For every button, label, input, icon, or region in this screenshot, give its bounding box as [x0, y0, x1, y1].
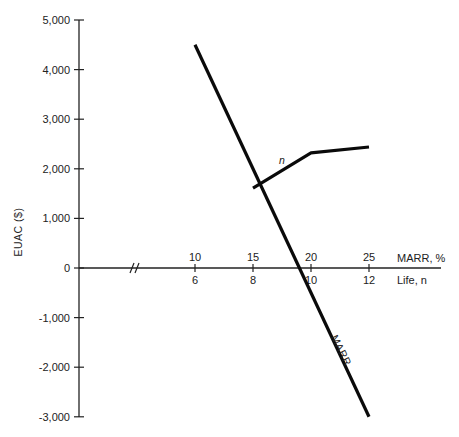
x-primary-tick-label: 20 — [305, 251, 317, 263]
series-marr-label: MARR — [329, 333, 354, 368]
x-secondary-tick-label: 12 — [363, 274, 375, 286]
x-primary-title: MARR, % — [397, 252, 446, 264]
y-tick-label: -3,000 — [39, 411, 70, 423]
y-tick-label: 5,000 — [42, 14, 70, 26]
x-primary-tick-label: 10 — [189, 251, 201, 263]
y-tick-label: 0 — [64, 262, 70, 274]
y-tick-label: 2,000 — [42, 163, 70, 175]
y-tick-label: -2,000 — [39, 361, 70, 373]
y-ticks: 5,0004,0003,0002,0001,0000-1,000-2,000-3… — [39, 14, 84, 423]
y-tick-label: 1,000 — [42, 212, 70, 224]
y-tick-label: -1,000 — [39, 312, 70, 324]
series-n-line — [253, 147, 369, 188]
x-secondary-title: Life, n — [397, 274, 427, 286]
series-n-label: n — [279, 154, 285, 166]
y-axis-title: EUAC ($) — [12, 208, 24, 257]
sensitivity-chart: 5,0004,0003,0002,0001,0000-1,000-2,000-3… — [0, 0, 459, 437]
x-secondary-tick-label: 8 — [250, 274, 256, 286]
x-primary-tick-label: 25 — [363, 251, 375, 263]
x-secondary-tick-label: 6 — [192, 274, 198, 286]
y-tick-label: 4,000 — [42, 64, 70, 76]
y-tick-label: 3,000 — [42, 113, 70, 125]
x-primary-tick-label: 15 — [247, 251, 259, 263]
